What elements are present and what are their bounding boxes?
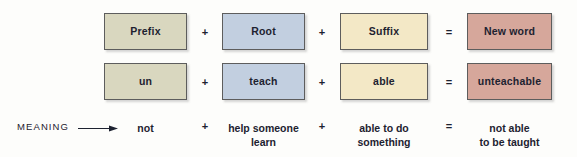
- plus-operator-row3-1: +: [197, 121, 213, 132]
- equals-operator-row1: =: [441, 27, 457, 38]
- meaning-cell-new-word: not able to be taught: [467, 121, 552, 149]
- prefix-box: Prefix: [104, 13, 187, 50]
- meaning-cell-root: help someone learn: [222, 121, 305, 149]
- plus-operator-row1-1: +: [197, 27, 213, 38]
- example-prefix-box: un: [104, 63, 187, 100]
- plus-operator-row1-2: +: [314, 27, 330, 38]
- equals-operator-row3: =: [441, 121, 457, 132]
- new-word-box: New word: [467, 13, 552, 50]
- example-suffix-box: able: [340, 63, 428, 100]
- plus-operator-row2-2: +: [314, 77, 330, 88]
- example-root-box: teach: [222, 63, 305, 100]
- meaning-row-label: MEANING: [17, 121, 69, 132]
- suffix-box: Suffix: [340, 13, 428, 50]
- equals-operator-row2: =: [441, 77, 457, 88]
- plus-operator-row2-1: +: [197, 77, 213, 88]
- root-box: Root: [222, 13, 305, 50]
- plus-operator-row3-2: +: [314, 121, 330, 132]
- meaning-cell-suffix: able to do something: [340, 121, 428, 149]
- example-new-word-box: unteachable: [467, 63, 552, 100]
- meaning-cell-prefix: not: [104, 121, 187, 135]
- word-formation-diagram: Prefix + Root + Suffix = New word un + t…: [0, 0, 577, 157]
